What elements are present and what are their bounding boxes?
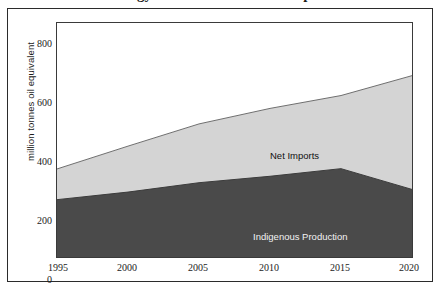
- area-chart-svg: [57, 23, 412, 257]
- x-tick-2020: 2020: [386, 262, 432, 274]
- y-tick-0: 0: [6, 275, 52, 285]
- y-axis-title: million tonnes oil equivalent: [25, 12, 36, 192]
- x-tick-2000: 2000: [104, 262, 150, 274]
- plot-area: Net Imports Indigenous Production: [56, 22, 413, 258]
- x-tick-2015: 2015: [317, 262, 363, 274]
- series-label-indigenous-production: Indigenous Production: [253, 231, 348, 242]
- y-tick-200: 200: [6, 216, 52, 226]
- x-tick-2005: 2005: [175, 262, 221, 274]
- chart-figure: Energy Production and Net Imports 800 60…: [0, 0, 442, 291]
- x-tick-1995: 1995: [35, 262, 81, 274]
- x-axis-tick-labels: 1995 2000 2005 2010 2015 2020: [56, 262, 413, 278]
- figure-title-text: Energy Production and Net Imports: [0, 0, 442, 3]
- series-label-net-imports: Net Imports: [270, 150, 319, 161]
- x-tick-2010: 2010: [246, 262, 292, 274]
- figure-title-cropped: Energy Production and Net Imports: [0, 0, 442, 7]
